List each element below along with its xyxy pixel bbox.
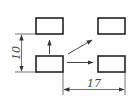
box-bottom-right	[98, 56, 125, 72]
box-bottom-left	[36, 56, 63, 72]
dimension-label-vertical: 10	[10, 46, 23, 60]
displacement-diagram: 10 17	[0, 0, 138, 103]
box-top-left	[36, 18, 63, 34]
arrow-diagonal-icon	[68, 40, 92, 54]
dimension-label-horizontal: 17	[87, 77, 101, 90]
horizontal-dimension: 17	[63, 72, 125, 95]
vertical-dimension: 10	[10, 34, 37, 72]
box-top-right	[98, 18, 125, 34]
